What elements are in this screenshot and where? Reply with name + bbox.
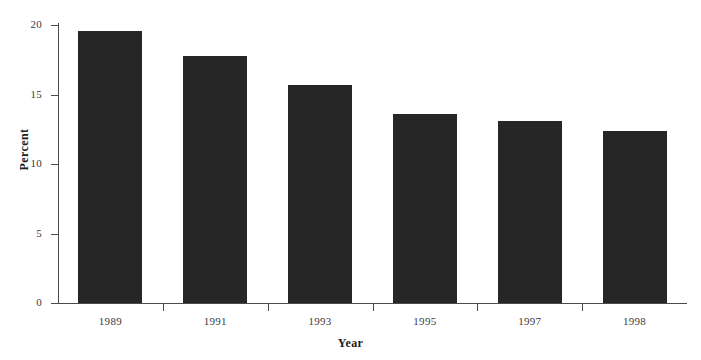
x-axis-title: Year bbox=[0, 336, 701, 351]
bar bbox=[498, 121, 562, 303]
y-axis-tick-label: 15 bbox=[8, 89, 42, 100]
y-axis-tick bbox=[51, 25, 59, 26]
x-axis-tick-label: 1998 bbox=[595, 316, 675, 327]
bar bbox=[393, 114, 457, 303]
x-axis-tick-label: 1997 bbox=[490, 316, 570, 327]
bar bbox=[603, 131, 667, 303]
x-axis-tick-label: 1991 bbox=[175, 316, 255, 327]
bar-chart-figure: Percent 05101520 19891991199319951997199… bbox=[0, 0, 701, 360]
y-axis-tick-label: 0 bbox=[8, 297, 42, 308]
y-axis-tick-label: 5 bbox=[8, 228, 42, 239]
x-axis-tick bbox=[582, 304, 583, 311]
x-axis-tick-label: 1989 bbox=[70, 316, 150, 327]
x-axis-tick bbox=[477, 304, 478, 311]
x-axis-tick bbox=[373, 304, 374, 311]
y-axis-tick bbox=[51, 164, 59, 165]
y-axis-tick-label: 20 bbox=[8, 19, 42, 30]
y-axis-title: Percent bbox=[17, 110, 32, 190]
x-axis-tick bbox=[268, 304, 269, 311]
bar bbox=[288, 85, 352, 303]
x-axis-tick bbox=[163, 304, 164, 311]
y-axis-tick-label: 10 bbox=[8, 158, 42, 169]
y-axis-tick bbox=[51, 234, 59, 235]
x-axis-tick-label: 1993 bbox=[280, 316, 360, 327]
bar bbox=[183, 56, 247, 303]
y-axis-tick bbox=[51, 303, 59, 304]
y-axis-tick bbox=[51, 95, 59, 96]
x-axis-tick-label: 1995 bbox=[385, 316, 465, 327]
bar bbox=[78, 31, 142, 303]
